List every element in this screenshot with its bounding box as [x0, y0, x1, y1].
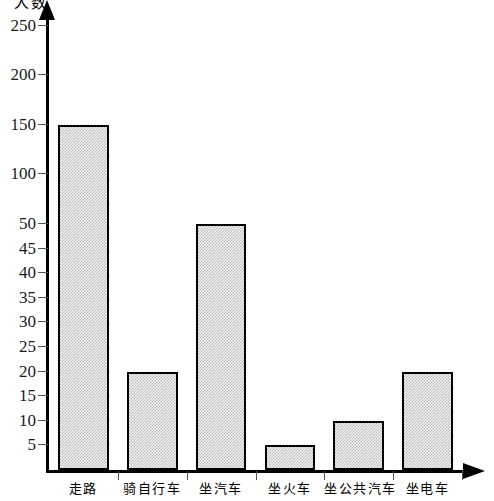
bar-chart: 人数 5101520253035404550100150200250 走路骑自行…: [0, 0, 494, 501]
y-axis-tick: [38, 223, 48, 224]
y-axis-tick-label: 10: [2, 412, 36, 429]
y-axis-tick-label: 45: [2, 240, 36, 257]
bar-1: [127, 372, 178, 470]
bar-5: [402, 372, 453, 470]
x-axis-category-label: 坐电车: [393, 478, 462, 497]
x-axis-category-label: 坐汽车: [187, 478, 256, 497]
y-axis-tick: [38, 124, 48, 125]
bar-4: [333, 421, 384, 470]
y-axis-tick-label: 150: [2, 116, 36, 133]
y-axis-tick: [38, 444, 48, 445]
x-axis-category-label: 骑自行车: [118, 478, 187, 497]
bar-0: [58, 125, 109, 470]
bar-2: [196, 224, 247, 470]
y-axis-tick-label: 200: [2, 66, 36, 83]
y-axis-tick: [38, 346, 48, 347]
x-axis-tick: [462, 471, 463, 480]
x-axis-category-label: 坐公共汽车: [324, 478, 393, 497]
x-axis-category-label: 坐火车: [256, 478, 325, 497]
y-axis-tick: [38, 25, 48, 26]
y-axis-tick: [38, 248, 48, 249]
x-axis-category-label: 走路: [49, 478, 118, 497]
x-axis-arrow-icon: [463, 463, 485, 479]
bar-3: [265, 445, 316, 470]
y-axis-tick: [38, 420, 48, 421]
y-axis-tick-label: 250: [2, 17, 36, 34]
y-axis-tick-label: 20: [2, 363, 36, 380]
y-axis-tick-label: 15: [2, 387, 36, 404]
y-axis-tick-label: 30: [2, 313, 36, 330]
y-axis-tick: [38, 371, 48, 372]
y-axis-tick-label: 40: [2, 264, 36, 281]
y-axis-tick: [38, 173, 48, 174]
plot-area: [49, 16, 462, 470]
y-axis-tick-label: 35: [2, 289, 36, 306]
y-axis-tick-label: 50: [2, 215, 36, 232]
y-axis-tick-label: 5: [2, 436, 36, 453]
y-axis-tick: [38, 395, 48, 396]
y-axis-tick: [38, 272, 48, 273]
y-axis-tick: [38, 297, 48, 298]
y-axis-tick-label: 100: [2, 165, 36, 182]
y-axis-tick-label: 25: [2, 338, 36, 355]
y-axis-tick: [38, 321, 48, 322]
y-axis-tick: [38, 74, 48, 75]
